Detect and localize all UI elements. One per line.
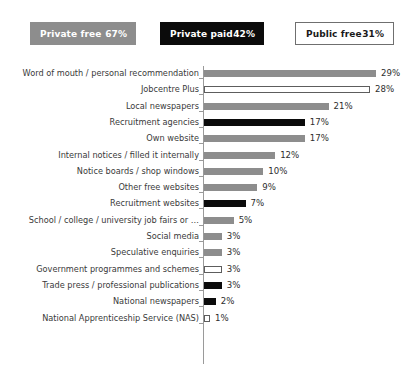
bar-value-label: 2% <box>221 295 235 307</box>
chart-row: Speculative enquiries3% <box>0 245 417 261</box>
chart-row: Word of mouth / personal recommendation2… <box>0 66 417 82</box>
legend-item-public-free[interactable]: Public free31% <box>295 22 394 45</box>
bar[interactable] <box>204 135 305 142</box>
legend-item-private-free[interactable]: Private free67% <box>30 22 136 45</box>
category-label: Notice boards / shop windows <box>77 166 199 177</box>
bar[interactable] <box>204 119 305 126</box>
chart-row: National newspapers2% <box>0 294 417 310</box>
bar[interactable] <box>204 249 222 256</box>
category-label: Word of mouth / personal recommendation <box>23 68 199 79</box>
bar[interactable] <box>204 217 234 224</box>
legend-item-label: Private free <box>40 29 101 39</box>
bar-value-label: 3% <box>227 263 241 275</box>
bar[interactable] <box>204 233 222 240</box>
bar-value-label: 10% <box>268 165 287 177</box>
bar[interactable] <box>204 266 222 273</box>
bar-value-label: 21% <box>334 100 353 112</box>
bar-value-label: 7% <box>251 197 265 209</box>
chart-row: Internal notices / filled it internally1… <box>0 148 417 164</box>
category-label: National Apprenticeship Service (NAS) <box>42 313 199 324</box>
category-label: Other free websites <box>118 182 199 193</box>
bar[interactable] <box>204 315 210 322</box>
bar-value-label: 1% <box>215 312 229 324</box>
legend-item-label: Private paid <box>170 29 233 39</box>
bar[interactable] <box>204 184 257 191</box>
bar[interactable] <box>204 70 376 77</box>
bar[interactable] <box>204 168 263 175</box>
bar-value-label: 29% <box>381 67 400 79</box>
bar-chart: Word of mouth / personal recommendation2… <box>0 62 417 387</box>
chart-row: Recruitment agencies17% <box>0 115 417 131</box>
bar-value-label: 3% <box>227 246 241 258</box>
category-label: Trade press / professional publications <box>42 280 199 291</box>
category-label: Jobcentre Plus <box>141 84 199 95</box>
legend-item-label: Public free <box>306 29 362 39</box>
chart-row: Other free websites9% <box>0 180 417 196</box>
bar[interactable] <box>204 152 275 159</box>
legend-item-value: 42% <box>233 29 255 39</box>
chart-row: Jobcentre Plus28% <box>0 82 417 98</box>
bar[interactable] <box>204 103 329 110</box>
bar-value-label: 12% <box>280 149 299 161</box>
category-label: Own website <box>146 133 199 144</box>
legend: Private free67%Private paid42%Public fre… <box>0 0 417 62</box>
category-label: Government programmes and schemes <box>36 264 199 275</box>
category-label: Internal notices / filled it internally <box>58 150 199 161</box>
bar-value-label: 3% <box>227 230 241 242</box>
bar[interactable] <box>204 200 246 207</box>
chart-row: Local newspapers21% <box>0 99 417 115</box>
bar-value-label: 17% <box>310 132 329 144</box>
category-label: Social media <box>147 231 199 242</box>
category-label: Recruitment websites <box>110 198 199 209</box>
chart-row: Trade press / professional publications3… <box>0 278 417 294</box>
legend-item-value: 67% <box>105 29 127 39</box>
category-label: Local newspapers <box>126 101 199 112</box>
bar[interactable] <box>204 298 216 305</box>
chart-row: National Apprenticeship Service (NAS)1% <box>0 311 417 327</box>
chart-row: Recruitment websites7% <box>0 196 417 212</box>
chart-row: Government programmes and schemes3% <box>0 262 417 278</box>
category-label: Speculative enquiries <box>111 247 199 258</box>
category-label: National newspapers <box>113 296 199 307</box>
bar-value-label: 3% <box>227 279 241 291</box>
bar-value-label: 5% <box>239 214 253 226</box>
category-label: School / college / university job fairs … <box>29 215 199 226</box>
bar-value-label: 28% <box>375 83 394 95</box>
chart-row: Social media3% <box>0 229 417 245</box>
chart-row: Own website17% <box>0 131 417 147</box>
chart-row: Notice boards / shop windows10% <box>0 164 417 180</box>
bar[interactable] <box>204 86 370 93</box>
legend-item-value: 31% <box>362 29 384 39</box>
legend-item-private-paid[interactable]: Private paid42% <box>160 22 264 45</box>
category-label: Recruitment agencies <box>110 117 199 128</box>
chart-row: School / college / university job fairs … <box>0 213 417 229</box>
bar-value-label: 17% <box>310 116 329 128</box>
bar[interactable] <box>204 282 222 289</box>
bar-value-label: 9% <box>262 181 276 193</box>
